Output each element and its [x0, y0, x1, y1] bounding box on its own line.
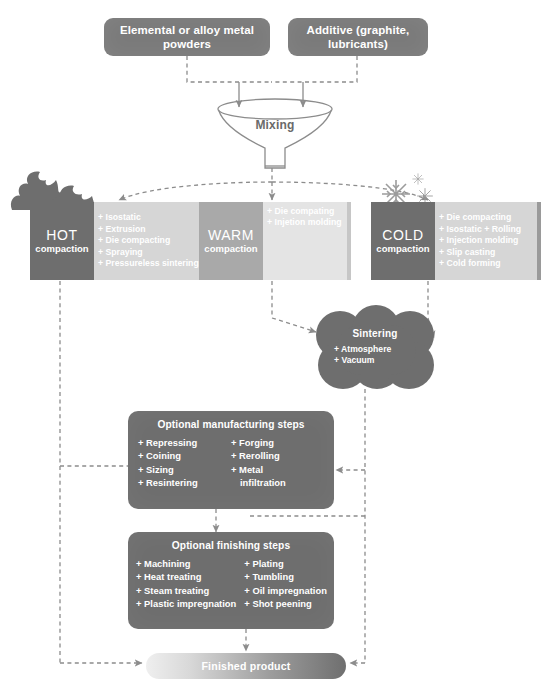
compaction-cold-label: COLD compaction — [371, 202, 435, 280]
compaction-hot-sub: compaction — [35, 243, 88, 255]
list-item: + Shot peening — [244, 597, 327, 610]
compaction-cold-items: + Die compacting + Isostatic + Rolling +… — [435, 202, 537, 280]
compaction-cold-name: COLD — [382, 228, 423, 243]
compaction-hot[interactable]: HOT compaction + Isostatic + Extrusion +… — [30, 202, 188, 280]
sintering-content: Sintering + Atmosphere + Vacuum — [316, 305, 434, 389]
diagram-canvas: Elemental or alloy metal powders Additiv… — [0, 0, 549, 687]
sintering-title: Sintering — [352, 328, 397, 339]
compaction-warm-endbar — [347, 202, 351, 280]
funnel-shape — [205, 98, 345, 170]
compaction-hot-label: HOT compaction — [30, 202, 94, 280]
compaction-warm-label: WARM compaction — [199, 202, 263, 280]
compaction-hot-items: + Isostatic + Extrusion + Die compacting… — [94, 202, 201, 280]
list-item: + Isostatic — [98, 212, 199, 223]
list-item: + Slip casting — [439, 247, 535, 258]
panel-optional-manufacturing-steps[interactable]: Optional manufacturing steps + Repressin… — [128, 411, 334, 509]
list-item: + Sizing — [138, 463, 231, 476]
panel-optional-finishing-steps[interactable]: Optional finishing steps + Machining + H… — [128, 532, 334, 629]
list-item: + Repressing — [138, 436, 231, 449]
compaction-cold[interactable]: COLD compaction + Die compacting + Isost… — [371, 202, 541, 280]
list-item: + Injetion molding — [267, 217, 345, 228]
finished-product-label: Finished product — [201, 660, 290, 672]
compaction-warm-name: WARM — [208, 228, 254, 243]
finished-product-node[interactable]: Finished product — [146, 653, 346, 679]
list-item: + Die compacting — [439, 212, 535, 223]
compaction-hot-name: HOT — [46, 228, 77, 243]
list-item: + Atmosphere — [334, 344, 391, 355]
list-item: + Rerolling — [231, 449, 324, 462]
compaction-cold-endbar — [537, 202, 541, 280]
finishing-col-right: + Plating + Tumbling + Oil impregnation … — [244, 557, 327, 611]
list-item: + Extrusion — [98, 224, 199, 235]
list-item: + Tumbling — [244, 570, 327, 583]
list-item: + Cold forming — [439, 258, 535, 269]
list-item: + Pressureless sintering — [98, 258, 199, 269]
list-item: infiltration — [231, 476, 324, 489]
panel-title-manufacturing: Optional manufacturing steps — [128, 411, 334, 430]
list-item: + Die compating — [267, 206, 345, 217]
input-label-additive: Additive (graphite, lubricants) — [288, 23, 428, 51]
list-item: + Heat treating — [136, 570, 244, 583]
list-item: + Die compacting — [98, 235, 199, 246]
list-item: + Vacuum — [334, 355, 374, 366]
list-item: + Injection molding — [439, 235, 535, 246]
manufacturing-col-right: + Forging + Rerolling + Metal infiltrati… — [231, 436, 324, 490]
finishing-col-left: + Machining + Heat treating + Steam trea… — [136, 557, 244, 611]
mixing-label: Mixing — [205, 118, 345, 132]
compaction-warm[interactable]: WARM compaction + Die compating + Injeti… — [199, 202, 351, 280]
list-item: + Forging — [231, 436, 324, 449]
panel-title-finishing: Optional finishing steps — [128, 532, 334, 551]
mixing-funnel[interactable]: Mixing — [205, 98, 345, 170]
list-item: + Metal — [231, 463, 324, 476]
list-item: + Oil impregnation — [244, 584, 327, 597]
list-item: + Coining — [138, 449, 231, 462]
list-item: + Plastic impregnation — [136, 597, 244, 610]
list-item: + Plating — [244, 557, 327, 570]
input-box-additive[interactable]: Additive (graphite, lubricants) — [288, 18, 428, 56]
list-item: + Machining — [136, 557, 244, 570]
list-item: + Steam treating — [136, 584, 244, 597]
manufacturing-col-left: + Repressing + Coining + Sizing + Resint… — [138, 436, 231, 490]
list-item: + Resintering — [138, 476, 231, 489]
list-item: + Spraying — [98, 247, 199, 258]
sintering-node[interactable]: Sintering + Atmosphere + Vacuum — [316, 305, 434, 389]
input-label-metal-powders: Elemental or alloy metal powders — [104, 23, 270, 51]
compaction-cold-sub: compaction — [376, 243, 429, 255]
compaction-warm-items: + Die compating + Injetion molding — [263, 202, 347, 280]
compaction-warm-sub: compaction — [204, 243, 257, 255]
list-item: + Isostatic + Rolling — [439, 224, 535, 235]
input-box-metal-powders[interactable]: Elemental or alloy metal powders — [104, 18, 270, 56]
